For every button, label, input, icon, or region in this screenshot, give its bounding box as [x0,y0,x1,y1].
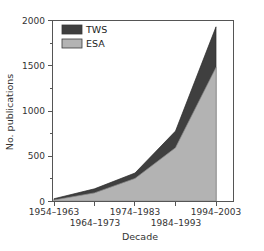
y-tick-label-1500: 1500 [22,61,45,71]
y-tick-label-500: 500 [28,151,45,161]
y-axis-title: No. publications [4,74,15,150]
y-tick-label-2000: 2000 [22,16,45,26]
legend-swatch-tws [62,25,82,34]
legend-label-tws: TWS [85,24,107,35]
chart-figure: 2000 1500 1000 500 0 1954–1963 1964–1973… [0,0,264,251]
legend-swatch-esa [62,39,82,48]
legend-label-esa: ESA [86,38,105,49]
publications-by-decade-stacked-area-chart: 2000 1500 1000 500 0 1954–1963 1964–1973… [0,0,264,251]
x-tick-label-1994-2003: 1994–2003 [191,207,241,217]
x-tick-label-1964-1973: 1964–1973 [70,218,120,228]
y-tick-label-0: 0 [39,197,45,207]
x-axis-title: Decade [122,231,158,242]
x-tick-label-1984-1993: 1984–1993 [151,218,201,228]
x-tick-label-1954-1963: 1954–1963 [29,207,79,217]
x-tick-label-1974-1983: 1974–1983 [110,207,160,217]
y-tick-label-1000: 1000 [22,106,45,116]
